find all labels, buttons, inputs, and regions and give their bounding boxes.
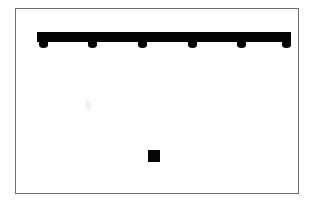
bar-node-4: [188, 42, 197, 48]
bar-node-2: [88, 42, 97, 48]
bar-node-1: [39, 42, 48, 48]
scan-smudge-artifact: [84, 99, 92, 111]
square-marker: [148, 150, 160, 162]
bar-node-3: [138, 42, 147, 48]
figure-frame: [15, 8, 299, 194]
horizontal-bar-assembly: [37, 32, 291, 48]
bar-body: [37, 32, 291, 42]
figure-canvas: [0, 0, 315, 203]
bar-node-6: [282, 42, 291, 48]
bar-node-5: [237, 42, 246, 48]
